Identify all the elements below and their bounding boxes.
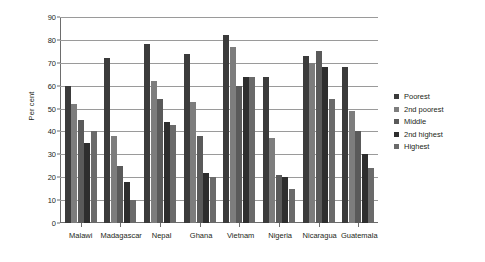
bar-group	[299, 17, 339, 223]
bar[interactable]	[164, 122, 170, 223]
bar[interactable]	[276, 175, 282, 223]
y-axis-tick-mark	[57, 39, 60, 40]
bar[interactable]	[210, 177, 216, 223]
y-axis-tick-mark	[57, 85, 60, 86]
plot-area: 0102030405060708090	[60, 17, 378, 223]
legend-swatch-icon	[394, 107, 399, 112]
y-axis-tick-mark	[57, 62, 60, 63]
bar-slot	[289, 17, 295, 223]
y-axis-tick-label: 40	[48, 127, 56, 136]
legend-item-label: 2nd poorest	[404, 105, 444, 114]
bar[interactable]	[236, 86, 242, 223]
bar-group	[338, 17, 378, 223]
bar[interactable]	[124, 182, 130, 223]
bar-slot	[342, 17, 348, 223]
x-axis-labels: MalawiMadagascarNepalGhanaVietnamNigeria…	[61, 231, 379, 240]
bar[interactable]	[355, 131, 361, 223]
bar[interactable]	[170, 125, 176, 223]
bar-slot	[303, 17, 309, 223]
bar[interactable]	[65, 86, 71, 223]
x-axis-tick-mark	[81, 223, 82, 227]
bar[interactable]	[71, 104, 77, 223]
bar[interactable]	[130, 200, 136, 223]
y-axis-tick-mark	[57, 154, 60, 155]
y-axis-tick-mark	[57, 200, 60, 201]
y-axis-tick-mark	[57, 17, 60, 18]
bar[interactable]	[151, 81, 157, 223]
legend-swatch-icon	[394, 119, 399, 124]
bar[interactable]	[316, 51, 322, 223]
bar[interactable]	[349, 111, 355, 223]
bar[interactable]	[329, 99, 335, 223]
legend-item[interactable]: Middle	[394, 117, 444, 126]
bar-slot	[84, 17, 90, 223]
bar-slot	[210, 17, 216, 223]
bar[interactable]	[190, 102, 196, 223]
bar[interactable]	[303, 56, 309, 223]
x-axis-tick-label: Nepal	[142, 231, 182, 240]
bar-group	[140, 17, 180, 223]
bar[interactable]	[282, 177, 288, 223]
bar-slot	[124, 17, 130, 223]
bar-group	[180, 17, 220, 223]
bar[interactable]	[144, 44, 150, 223]
bar-chart: Per cent 0102030405060708090 MalawiMadag…	[0, 0, 485, 262]
bar[interactable]	[263, 77, 269, 223]
bar-group	[259, 17, 299, 223]
bar[interactable]	[117, 166, 123, 223]
bar-slot	[117, 17, 123, 223]
bar[interactable]	[104, 58, 110, 223]
legend-item[interactable]: 2nd highest	[394, 130, 444, 139]
legend-item[interactable]: Highest	[394, 142, 444, 151]
legend-item-label: Middle	[404, 117, 426, 126]
bar[interactable]	[309, 63, 315, 223]
bar-slot	[130, 17, 136, 223]
bar-group	[101, 17, 141, 223]
bar-slot	[249, 17, 255, 223]
bar-slot	[144, 17, 150, 223]
bar[interactable]	[362, 154, 368, 223]
y-axis-tick-label: 80	[48, 35, 56, 44]
x-axis-tick-mark	[200, 223, 201, 227]
y-axis-tick-label: 50	[48, 104, 56, 113]
bar-group	[220, 17, 260, 223]
x-axis-tick-mark	[160, 223, 161, 227]
bar-slot	[263, 17, 269, 223]
bar[interactable]	[230, 47, 236, 223]
bar[interactable]	[243, 77, 249, 223]
bar[interactable]	[342, 67, 348, 223]
legend: Poorest2nd poorestMiddle2nd highestHighe…	[394, 92, 444, 151]
bar[interactable]	[197, 136, 203, 223]
bar[interactable]	[322, 67, 328, 223]
bar[interactable]	[184, 54, 190, 223]
y-axis-tick-mark	[57, 108, 60, 109]
bar[interactable]	[84, 143, 90, 223]
bar[interactable]	[269, 138, 275, 223]
bar[interactable]	[249, 77, 255, 223]
x-axis-tick-label: Malawi	[61, 231, 101, 240]
y-axis-tick-mark	[57, 131, 60, 132]
bar[interactable]	[91, 131, 97, 223]
bar-slot	[111, 17, 117, 223]
y-axis-label: Per cent	[27, 71, 36, 141]
bar[interactable]	[203, 173, 209, 223]
bar-slot	[269, 17, 275, 223]
x-axis-tick-label: Madagascar	[101, 231, 142, 240]
bar[interactable]	[368, 168, 374, 223]
x-axis-tick-label: Guatemala	[339, 231, 379, 240]
bar-slot	[190, 17, 196, 223]
legend-item-label: Highest	[404, 142, 429, 151]
bar-slot	[368, 17, 374, 223]
bar[interactable]	[223, 35, 229, 223]
bar-slot	[104, 17, 110, 223]
bar[interactable]	[111, 136, 117, 223]
bar[interactable]	[289, 189, 295, 223]
bar-slot	[223, 17, 229, 223]
bar[interactable]	[157, 99, 163, 223]
x-axis-tick-mark	[358, 223, 359, 227]
legend-item[interactable]: Poorest	[394, 92, 444, 101]
bar[interactable]	[78, 120, 84, 223]
legend-swatch-icon	[394, 144, 399, 149]
legend-item-label: 2nd highest	[404, 130, 443, 139]
legend-item[interactable]: 2nd poorest	[394, 105, 444, 114]
